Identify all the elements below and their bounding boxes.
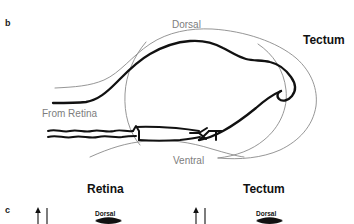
label-dorsal-tectum: Dorsal <box>256 210 276 217</box>
tectum-dorsal-blob <box>256 217 283 224</box>
tectum-axis-arrow <box>193 207 199 224</box>
axon-descending-limb <box>199 91 281 140</box>
label-dorsal-panel-b: Dorsal <box>172 19 201 30</box>
heading-tectum: Tectum <box>243 182 285 196</box>
axon-ventral-branch-lower <box>139 137 200 141</box>
label-tectum-panel-b: Tectum <box>303 33 345 47</box>
axon-collateral-riser <box>133 126 139 140</box>
panel-b-letter: b <box>5 18 11 28</box>
label-from-retina: From Retina <box>42 108 97 119</box>
figure-container: b c Dorsal Tectum From Retina Ventral Re… <box>0 0 354 224</box>
axon-ventral-branch-upper <box>136 127 199 131</box>
label-ventral-panel-b: Ventral <box>173 155 204 166</box>
tectum-ventral-contour <box>90 140 244 157</box>
panel-c-graphics <box>35 207 283 224</box>
retina-axis-arrow <box>35 207 41 224</box>
heading-retina: Retina <box>87 182 124 196</box>
axon-ventral-fiber-upper <box>48 130 133 132</box>
retina-dorsal-blob <box>95 217 122 224</box>
axon-dorsal-branch <box>53 41 295 103</box>
axon-arbor-group <box>48 41 295 141</box>
axon-ventral-fiber-lower <box>48 136 136 138</box>
label-dorsal-retina: Dorsal <box>95 210 115 217</box>
panel-c-letter: c <box>5 205 10 215</box>
